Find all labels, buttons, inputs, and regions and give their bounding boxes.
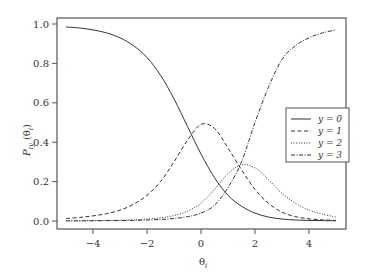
x-axis-label: θi — [199, 256, 207, 270]
legend-label: y = 1 — [317, 126, 342, 136]
y-tick-label: 0.4 — [33, 137, 49, 148]
y-axis-ticks: 0.00.20.40.60.81.0 — [33, 19, 57, 227]
legend-label: y = 0 — [317, 114, 342, 124]
x-tick-label: 4 — [306, 238, 312, 249]
legend: y = 0y = 1y = 2y = 3 — [286, 108, 349, 162]
y-tick-label: 0.2 — [33, 176, 49, 187]
x-axis-ticks: −4−2024 — [86, 229, 313, 249]
irt-category-response-chart: 0.00.20.40.60.81.0 −4−2024 θi Piy(θi) y … — [0, 0, 365, 279]
curve-y2 — [66, 165, 336, 221]
legend-label: y = 2 — [317, 138, 342, 148]
x-tick-label: 0 — [198, 238, 204, 249]
y-tick-label: 0.0 — [33, 216, 49, 227]
legend-label: y = 3 — [317, 150, 342, 160]
x-tick-label: −4 — [86, 238, 101, 249]
y-tick-label: 1.0 — [33, 19, 49, 30]
x-tick-label: −2 — [140, 238, 155, 249]
x-tick-label: 2 — [252, 238, 258, 249]
y-tick-label: 0.6 — [33, 97, 49, 108]
y-tick-label: 0.8 — [33, 58, 49, 69]
